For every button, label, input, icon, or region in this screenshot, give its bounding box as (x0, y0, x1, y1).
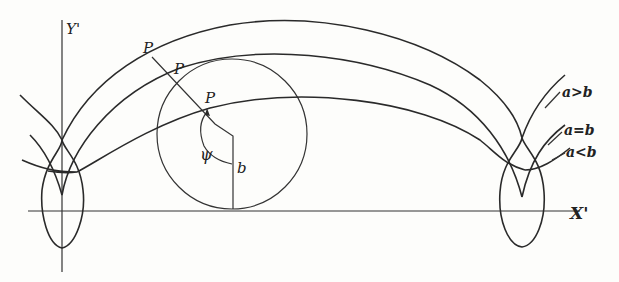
label-curtate: a<b (566, 144, 597, 160)
leader-curtate (552, 153, 565, 160)
label-cycloid: a=b (564, 122, 595, 138)
radius-arm (152, 57, 233, 209)
trochoid-diagram: Y' X' P P P ψ b a>b a=b a<b (0, 0, 619, 282)
curve-cycloid (30, 54, 565, 197)
curve-curtate (22, 97, 570, 172)
rolling-circle (157, 59, 307, 209)
point-label-inner: P (204, 89, 216, 107)
y-axis-label: Y' (66, 20, 80, 38)
leader-prolate (545, 92, 560, 108)
point-label-middle: P (173, 60, 185, 78)
point-label-outer: P (142, 39, 154, 57)
angle-label: ψ (200, 145, 213, 164)
label-prolate: a>b (562, 84, 593, 100)
x-axis-label: X' (569, 203, 588, 223)
radius-label: b (237, 159, 247, 177)
